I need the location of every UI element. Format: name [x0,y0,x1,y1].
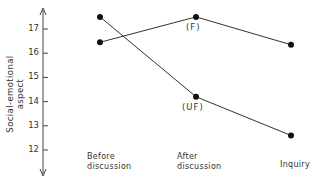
x-category-label: Inquiry [280,160,310,170]
data-point [193,94,199,100]
data-point [97,39,103,45]
y-tick-label: 13 [25,120,39,130]
x-category-label: Beforediscussion [87,152,131,172]
x-category-label: Afterdiscussion [177,152,221,172]
y-tick-label: 17 [25,23,39,33]
line-chart: Social-emotional aspect 121314151617 Bef… [0,0,323,180]
data-point [288,132,294,138]
y-tick-label: 12 [25,144,39,154]
series-annotation: (UF) [182,102,204,112]
plot-area [0,0,323,180]
y-tick-label: 15 [25,71,39,81]
data-point [193,14,199,20]
series-annotation: (F) [186,22,201,32]
data-point [288,42,294,48]
data-point [97,14,103,20]
y-tick-label: 14 [25,96,39,106]
y-tick-label: 16 [25,47,39,57]
y-axis-label: Social-emotional aspect [5,39,25,149]
